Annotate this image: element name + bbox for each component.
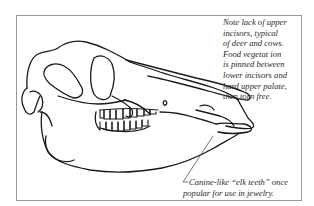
- annotation-elk-teeth: Canine-like “elk teeth” once popular for…: [183, 177, 303, 198]
- mandible-angle: [46, 136, 75, 162]
- canine-elk-tooth: [163, 101, 167, 105]
- leader-line: [183, 136, 213, 182]
- annotation-line: hard upper palate,: [223, 81, 305, 92]
- snout-curve: [200, 105, 214, 110]
- lower-tooth-row: [100, 120, 150, 132]
- annotation-line: popular for use in jewelry.: [183, 188, 303, 199]
- preorbital-opening: [91, 56, 115, 100]
- mandible-inner: [95, 112, 100, 130]
- annotation-line: then torn free.: [223, 91, 305, 102]
- annotation-line: of deer and cows.: [223, 38, 305, 49]
- cranium-outline: [27, 41, 238, 100]
- ear-region: [30, 91, 43, 112]
- zygomatic-arch: [58, 96, 126, 104]
- upper-diastema: [160, 112, 216, 124]
- annotation-line: is pinned between: [223, 59, 305, 70]
- annotation-line: Canine-like “elk teeth” once: [183, 177, 303, 188]
- orbit: [44, 64, 83, 98]
- annotation-line: incisors, typical: [223, 28, 305, 39]
- annotation-line: Food vegetat ion: [223, 49, 305, 60]
- annotation-line: Note lack of upper: [223, 17, 305, 28]
- annotation-line: lower incisors and: [223, 70, 305, 81]
- annotation-upper-incisors: Note lack of upper incisors, typical of …: [223, 17, 305, 102]
